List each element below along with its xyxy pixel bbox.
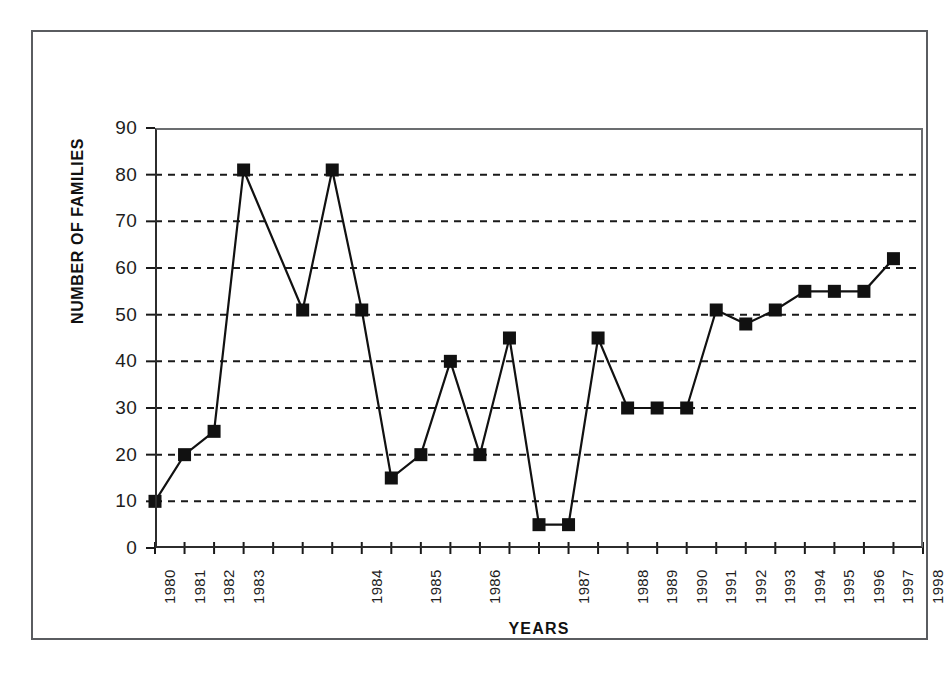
data-point-marker — [296, 304, 309, 317]
x-axis-tick-label: 1998 — [929, 569, 946, 604]
x-axis-tick-label: 1983 — [250, 569, 267, 604]
x-axis-tick-label: 1996 — [870, 569, 887, 604]
data-point-marker — [444, 355, 457, 368]
data-point-marker — [178, 448, 191, 461]
data-point-marker — [621, 402, 634, 415]
data-point-marker — [208, 425, 221, 438]
data-point-marker — [355, 304, 368, 317]
x-axis-tick-label: 1980 — [161, 569, 178, 604]
data-point-marker — [149, 495, 162, 508]
data-point-marker — [592, 332, 605, 345]
data-point-marker — [798, 285, 811, 298]
y-axis-tick-label: 70 — [115, 210, 137, 232]
data-point-marker — [828, 285, 841, 298]
data-point-marker — [769, 304, 782, 317]
data-point-marker — [473, 448, 486, 461]
y-axis-tick-label: 10 — [115, 490, 137, 512]
data-point-marker — [710, 304, 723, 317]
chart-page: NUMBER OF FAMILIES 0102030405060708090 1… — [0, 0, 951, 674]
chart-outer-frame: NUMBER OF FAMILIES 0102030405060708090 1… — [31, 30, 928, 640]
x-axis-tick-label: 1989 — [663, 569, 680, 604]
x-axis-tick-label: 1997 — [899, 569, 916, 604]
data-point-marker — [887, 252, 900, 265]
data-point-marker — [237, 164, 250, 177]
series-line — [155, 170, 893, 525]
data-point-marker — [503, 332, 516, 345]
x-axis-tick-label: 1987 — [575, 569, 592, 604]
x-axis-title: YEARS — [155, 620, 923, 638]
y-axis-tick-labels: 0102030405060708090 — [33, 128, 151, 548]
y-axis-tick-label: 30 — [115, 397, 137, 419]
x-axis-tick-labels: 1980198119821983198419851986198719881989… — [155, 556, 923, 616]
x-axis-tick-label: 1985 — [427, 569, 444, 604]
data-point-marker — [680, 402, 693, 415]
x-axis-tick-label: 1982 — [220, 569, 237, 604]
x-axis-tick-label: 1991 — [722, 569, 739, 604]
y-axis-tick-label: 20 — [115, 444, 137, 466]
x-axis-tick-label: 1984 — [368, 569, 385, 604]
x-axis-tick-label: 1988 — [634, 569, 651, 604]
x-axis-tick-label: 1994 — [811, 569, 828, 604]
x-axis-tick-label: 1992 — [752, 569, 769, 604]
data-point-marker — [651, 402, 664, 415]
plot-area — [155, 128, 923, 548]
data-series-layer — [155, 128, 923, 548]
y-axis-tick-label: 0 — [126, 537, 137, 559]
data-point-marker — [857, 285, 870, 298]
y-axis-tick-label: 50 — [115, 304, 137, 326]
y-axis-tick-label: 80 — [115, 164, 137, 186]
x-axis-tick-label: 1995 — [840, 569, 857, 604]
x-axis-tick-label: 1986 — [486, 569, 503, 604]
data-point-marker — [533, 518, 546, 531]
y-axis-tick-label: 90 — [115, 117, 137, 139]
data-point-marker — [326, 164, 339, 177]
x-axis-tick-label: 1990 — [693, 569, 710, 604]
data-point-marker — [739, 318, 752, 331]
y-axis-tick-label: 40 — [115, 350, 137, 372]
data-point-marker — [414, 448, 427, 461]
y-axis-tick-label: 60 — [115, 257, 137, 279]
x-axis-tick-label: 1981 — [191, 569, 208, 604]
data-point-marker — [385, 472, 398, 485]
data-point-marker — [562, 518, 575, 531]
x-axis-tick-label: 1993 — [781, 569, 798, 604]
